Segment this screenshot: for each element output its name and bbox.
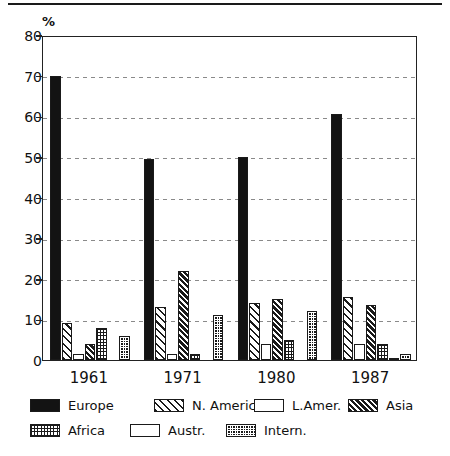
plot-inner bbox=[43, 37, 416, 360]
bar-1971-l-amer- bbox=[167, 354, 178, 360]
x-axis-label-1961: 1961 bbox=[42, 371, 136, 386]
y-axis: 01020304050607080 bbox=[0, 36, 42, 361]
legend-label-asia: Asia bbox=[386, 398, 413, 413]
bar-1971-intern- bbox=[213, 315, 224, 360]
legend-label-austr-: Austr. bbox=[168, 423, 205, 438]
fine-grid-icon bbox=[30, 424, 60, 437]
legend-label-europe: Europe bbox=[68, 398, 114, 413]
x-axis-label-1971: 1971 bbox=[136, 371, 230, 386]
x-axis-label-1987: 1987 bbox=[323, 371, 417, 386]
plot-area bbox=[42, 36, 417, 361]
legend-label-intern-: Intern. bbox=[264, 423, 307, 438]
legend-label-africa: Africa bbox=[68, 423, 105, 438]
x-axis-label-1980: 1980 bbox=[230, 371, 324, 386]
y-axis-unit-label: % bbox=[42, 15, 55, 28]
bar-1961-africa bbox=[96, 328, 107, 361]
bar-1961-intern- bbox=[119, 336, 130, 360]
bar-1980-n-americ bbox=[249, 303, 260, 360]
bar-1971-africa bbox=[190, 354, 201, 360]
bar-chart-figure: % 01020304050607080 1961197119801987 Eur… bbox=[0, 0, 450, 456]
legend-label-n-americ: N. Americ bbox=[192, 398, 256, 413]
y-tick-label-0: 0 bbox=[6, 354, 42, 368]
diagonal-hatch-icon bbox=[154, 399, 184, 412]
bar-group-1961 bbox=[43, 37, 137, 360]
bar-group-1987 bbox=[324, 37, 418, 360]
bar-1961-asia bbox=[85, 344, 96, 360]
bar-1971-n-americ bbox=[155, 307, 166, 360]
bar-1980-europe bbox=[238, 157, 249, 360]
bar-1987-n-americ bbox=[343, 297, 354, 360]
legend-label-l-amer-: L.Amer. bbox=[292, 398, 341, 413]
bar-1987-austr- bbox=[389, 358, 400, 360]
bar-1980-asia bbox=[272, 299, 283, 360]
bar-1987-europe bbox=[331, 114, 342, 360]
bar-1961-europe bbox=[50, 76, 61, 360]
bar-1987-l-amer- bbox=[354, 344, 365, 360]
bar-1971-europe bbox=[144, 159, 155, 360]
bar-group-1971 bbox=[137, 37, 231, 360]
bar-1971-asia bbox=[178, 271, 189, 360]
solid-black-icon bbox=[30, 399, 60, 412]
header-rule bbox=[8, 3, 442, 5]
dark-checker-icon bbox=[226, 424, 256, 437]
bar-1987-intern- bbox=[400, 354, 411, 360]
bar-1980-africa bbox=[284, 340, 295, 360]
bar-group-1980 bbox=[231, 37, 325, 360]
bar-1980-l-amer- bbox=[261, 344, 272, 360]
light-dots-icon bbox=[254, 399, 284, 412]
white-empty-icon bbox=[130, 424, 160, 437]
dense-hatch-icon bbox=[348, 399, 378, 412]
chart-legend: EuropeN. AmericL.Amer.AsiaAfricaAustr.In… bbox=[30, 397, 430, 449]
bar-1961-l-amer- bbox=[73, 354, 84, 360]
bar-1987-africa bbox=[377, 344, 388, 360]
bar-1987-asia bbox=[366, 305, 377, 360]
bar-1961-n-americ bbox=[62, 323, 73, 360]
bar-1980-intern- bbox=[307, 311, 318, 360]
